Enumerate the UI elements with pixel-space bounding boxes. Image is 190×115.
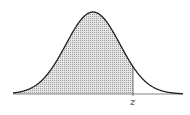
z-label: z [129,96,136,107]
shaded-area [13,12,133,94]
normal-curve-chart: z [0,0,190,115]
